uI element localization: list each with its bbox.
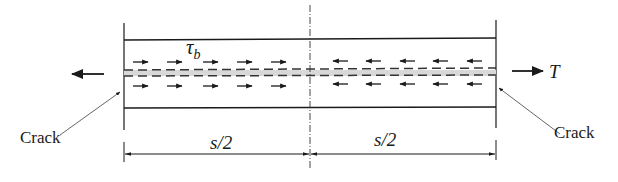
left-half-span-label: s/2 xyxy=(210,132,233,153)
right-crack-leader xyxy=(499,88,560,134)
left-crack-leader xyxy=(60,92,120,135)
right-crack-label: Crack xyxy=(554,123,595,142)
bond-stress-diagram: τb T Crack Crack s/2 s/2 xyxy=(0,0,618,182)
force-label: T xyxy=(549,61,561,82)
left-crack-label: Crack xyxy=(20,128,61,147)
right-half-span-label: s/2 xyxy=(374,129,397,150)
